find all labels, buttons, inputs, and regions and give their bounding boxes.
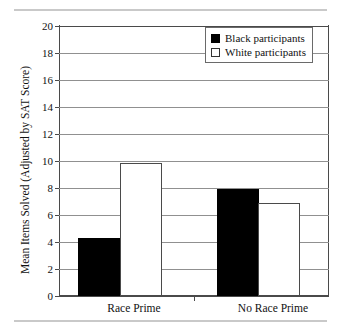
legend-item-white: White participants	[211, 45, 306, 59]
gridline	[59, 161, 329, 162]
gridline	[59, 107, 329, 108]
legend-swatch-icon-white	[211, 48, 220, 57]
plot-area: 02468101214161820	[59, 25, 329, 296]
y-tick-label: 2	[48, 264, 54, 275]
x-axis-separator-tick	[194, 296, 195, 301]
y-tick-mark	[55, 296, 59, 297]
figure-container: Mean Items Solved (Adjusted by SAT Score…	[0, 0, 342, 334]
y-tick-label: 6	[48, 210, 54, 221]
y-tick-label: 0	[48, 291, 54, 302]
legend-label-white: White participants	[225, 45, 306, 59]
gridline	[59, 80, 329, 81]
bar-white-0	[120, 163, 162, 296]
y-tick-label: 16	[42, 75, 53, 86]
chart-legend: Black participants White participants	[205, 27, 313, 63]
y-tick-label: 18	[42, 48, 53, 59]
y-tick-mark	[55, 215, 59, 216]
y-tick-mark	[55, 242, 59, 243]
y-tick-mark	[55, 107, 59, 108]
y-tick-label: 12	[42, 129, 53, 140]
y-tick-mark	[55, 161, 59, 162]
y-tick-mark	[55, 80, 59, 81]
y-tick-mark	[55, 269, 59, 270]
legend-label-black: Black participants	[225, 31, 305, 45]
y-tick-mark	[55, 134, 59, 135]
y-tick-label: 10	[42, 156, 53, 167]
y-axis-title: Mean Items Solved (Adjusted by SAT Score…	[16, 35, 34, 305]
y-tick-mark	[55, 188, 59, 189]
bar-black-0	[78, 238, 120, 296]
bar-black-1	[217, 189, 259, 296]
bar-white-1	[258, 203, 300, 296]
y-tick-mark	[55, 26, 59, 27]
top-divider-rule	[14, 9, 327, 11]
y-tick-mark	[55, 53, 59, 54]
y-tick-label: 14	[42, 102, 53, 113]
legend-swatch-icon-black	[211, 34, 220, 43]
x-axis-label-0: Race Prime	[64, 301, 204, 315]
y-tick-label: 4	[48, 237, 54, 248]
y-tick-label: 8	[48, 183, 54, 194]
bottom-divider-rule	[14, 320, 327, 322]
gridline	[59, 188, 329, 189]
y-tick-label: 20	[42, 21, 53, 32]
legend-item-black: Black participants	[211, 31, 306, 45]
x-axis-label-1: No Race Prime	[203, 301, 342, 315]
gridline	[59, 134, 329, 135]
